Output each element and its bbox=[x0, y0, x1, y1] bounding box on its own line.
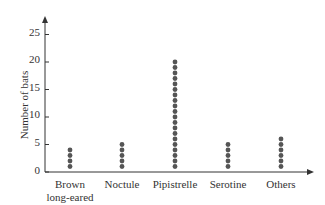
data-dot bbox=[173, 153, 178, 158]
data-dot bbox=[68, 148, 73, 153]
data-dot bbox=[226, 153, 231, 158]
data-dot bbox=[279, 164, 284, 169]
data-dot bbox=[120, 148, 125, 153]
data-dot bbox=[120, 164, 125, 169]
data-dot bbox=[173, 126, 178, 131]
y-tick-marks bbox=[45, 35, 49, 173]
data-dot bbox=[173, 82, 178, 87]
data-dot bbox=[173, 60, 178, 65]
data-dot bbox=[173, 76, 178, 81]
data-dot bbox=[173, 87, 178, 92]
data-dot bbox=[120, 159, 125, 164]
data-dot bbox=[173, 93, 178, 98]
data-dot bbox=[279, 153, 284, 158]
data-dot bbox=[68, 164, 73, 169]
y-tick-label: 5 bbox=[20, 136, 40, 148]
data-dot bbox=[120, 142, 125, 147]
y-axis-arrow-icon bbox=[42, 16, 48, 23]
data-dot bbox=[173, 159, 178, 164]
y-tick-label: 25 bbox=[20, 26, 40, 38]
data-dot bbox=[279, 137, 284, 142]
x-axis-arrow-icon bbox=[307, 169, 314, 175]
data-dot bbox=[173, 137, 178, 142]
data-dot bbox=[173, 71, 178, 76]
data-dot bbox=[173, 142, 178, 147]
data-dot bbox=[279, 148, 284, 153]
y-tick-label: 10 bbox=[20, 108, 40, 120]
data-dot bbox=[226, 164, 231, 169]
data-dot bbox=[173, 148, 178, 153]
y-tick-label: 20 bbox=[20, 53, 40, 65]
data-dot bbox=[226, 148, 231, 153]
data-dot bbox=[173, 98, 178, 103]
data-dot bbox=[173, 120, 178, 125]
plot-area bbox=[0, 0, 325, 205]
data-dot bbox=[279, 159, 284, 164]
data-dot bbox=[226, 142, 231, 147]
data-dot bbox=[68, 159, 73, 164]
y-tick-label: 15 bbox=[20, 81, 40, 93]
data-dot bbox=[173, 104, 178, 109]
data-dot bbox=[173, 115, 178, 120]
category-label-others: Others bbox=[246, 178, 316, 191]
data-dot bbox=[173, 109, 178, 114]
y-tick-label: 0 bbox=[20, 164, 40, 176]
data-dot bbox=[279, 142, 284, 147]
data-dot bbox=[68, 153, 73, 158]
data-dot bbox=[173, 164, 178, 169]
dot-plot-chart: Number of bats 0 5 10 15 20 25 Brown lon… bbox=[0, 0, 325, 205]
data-dots bbox=[68, 60, 284, 169]
data-dot bbox=[173, 131, 178, 136]
data-dot bbox=[226, 159, 231, 164]
data-dot bbox=[173, 65, 178, 70]
data-dot bbox=[120, 153, 125, 158]
